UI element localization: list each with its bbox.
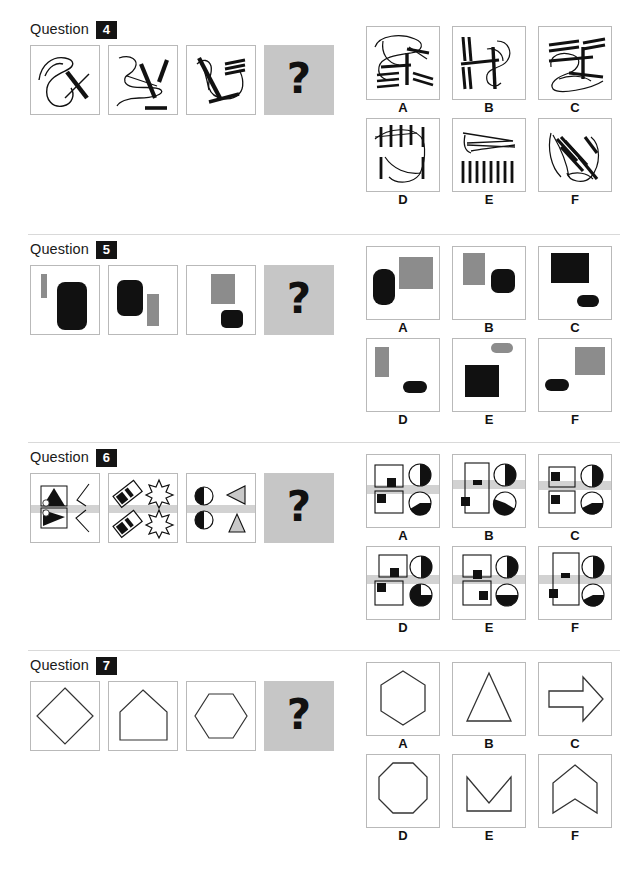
option-d[interactable]: D xyxy=(366,754,440,844)
stem-cell-1[interactable] xyxy=(30,265,100,335)
option-d-figure[interactable] xyxy=(366,338,440,412)
stem-cell-2[interactable] xyxy=(108,681,178,751)
stem-cell-unknown[interactable]: ? xyxy=(264,473,334,543)
question-mark-glyph: ? xyxy=(287,486,311,528)
question-word-label: Question xyxy=(30,656,89,675)
stem-row-5: ? xyxy=(30,265,334,335)
option-e-figure[interactable] xyxy=(452,118,526,192)
option-e[interactable]: E xyxy=(452,546,526,636)
option-b[interactable]: B xyxy=(452,454,526,544)
question-word-label: Question xyxy=(30,448,89,467)
stem-cell-1[interactable] xyxy=(30,45,100,115)
stem-cell-2[interactable] xyxy=(108,265,178,335)
option-e-figure[interactable] xyxy=(452,546,526,620)
option-c-figure[interactable] xyxy=(538,26,612,100)
option-b-label: B xyxy=(452,100,526,116)
option-d-figure[interactable] xyxy=(366,118,440,192)
stem-row-7: ? xyxy=(30,681,334,751)
option-f-figure[interactable] xyxy=(538,118,612,192)
option-f[interactable]: F xyxy=(538,338,612,428)
question-block-5: Question 5 xyxy=(0,234,644,442)
option-d-label: D xyxy=(366,412,440,428)
option-f-figure[interactable] xyxy=(538,338,612,412)
option-f-label: F xyxy=(538,192,612,208)
option-f[interactable]: F xyxy=(538,546,612,636)
option-d[interactable]: D xyxy=(366,338,440,428)
answer-row-4: A B xyxy=(366,26,612,208)
option-d-figure[interactable] xyxy=(366,546,440,620)
option-f-figure[interactable] xyxy=(538,754,612,828)
section-separator xyxy=(28,650,620,651)
option-a-figure[interactable] xyxy=(366,246,440,320)
option-b-figure[interactable] xyxy=(452,662,526,736)
option-e-label: E xyxy=(452,192,526,208)
option-a-figure[interactable] xyxy=(366,662,440,736)
option-d-figure[interactable] xyxy=(366,754,440,828)
option-a[interactable]: A xyxy=(366,454,440,544)
option-f[interactable]: F xyxy=(538,754,612,844)
stem-cell-unknown[interactable]: ? xyxy=(264,45,334,115)
option-c-label: C xyxy=(538,320,612,336)
stem-cell-3[interactable] xyxy=(186,45,256,115)
option-b-label: B xyxy=(452,320,526,336)
option-d[interactable]: D xyxy=(366,118,440,208)
option-f-label: F xyxy=(538,412,612,428)
option-b-figure[interactable] xyxy=(452,246,526,320)
option-a-label: A xyxy=(366,100,440,116)
answer-row-7: A B C xyxy=(366,662,612,844)
option-d[interactable]: D xyxy=(366,546,440,636)
option-a[interactable]: A xyxy=(366,246,440,336)
option-b-figure[interactable] xyxy=(452,454,526,528)
question-header-6: Question 6 xyxy=(30,448,117,467)
stem-cell-1[interactable] xyxy=(30,681,100,751)
stem-cell-3[interactable] xyxy=(186,473,256,543)
option-f[interactable]: F xyxy=(538,118,612,208)
option-e-figure[interactable] xyxy=(452,754,526,828)
option-a-figure[interactable] xyxy=(366,26,440,100)
option-c-figure[interactable] xyxy=(538,454,612,528)
stem-cell-3[interactable] xyxy=(186,265,256,335)
option-d-label: D xyxy=(366,620,440,636)
option-e[interactable]: E xyxy=(452,754,526,844)
option-c[interactable]: C xyxy=(538,246,612,336)
option-a-label: A xyxy=(366,736,440,752)
question-header-7: Question 7 xyxy=(30,656,117,675)
option-c-label: C xyxy=(538,528,612,544)
stem-cell-1[interactable] xyxy=(30,473,100,543)
option-a[interactable]: A xyxy=(366,662,440,752)
stem-cell-2[interactable] xyxy=(108,473,178,543)
stem-cell-unknown[interactable]: ? xyxy=(264,265,334,335)
answer-row-5: A B C xyxy=(366,246,612,428)
stem-cell-3[interactable] xyxy=(186,681,256,751)
option-f-figure[interactable] xyxy=(538,546,612,620)
option-a[interactable]: A xyxy=(366,26,440,116)
option-d-label: D xyxy=(366,192,440,208)
question-number-badge: 6 xyxy=(96,449,117,467)
option-b[interactable]: B xyxy=(452,26,526,116)
question-word-label: Question xyxy=(30,20,89,39)
option-b[interactable]: B xyxy=(452,246,526,336)
option-e-figure[interactable] xyxy=(452,338,526,412)
option-c-figure[interactable] xyxy=(538,662,612,736)
option-b-figure[interactable] xyxy=(452,26,526,100)
option-e[interactable]: E xyxy=(452,338,526,428)
question-word-label: Question xyxy=(30,240,89,259)
option-b-label: B xyxy=(452,528,526,544)
stem-row-4: ? xyxy=(30,45,334,115)
stem-cell-unknown[interactable]: ? xyxy=(264,681,334,751)
option-c[interactable]: C xyxy=(538,454,612,544)
option-c[interactable]: C xyxy=(538,26,612,116)
question-block-4: Question 4 xyxy=(0,14,644,230)
question-mark-glyph: ? xyxy=(287,694,311,736)
option-a-figure[interactable] xyxy=(366,454,440,528)
question-header-4: Question 4 xyxy=(30,20,117,39)
option-c-label: C xyxy=(538,736,612,752)
option-f-label: F xyxy=(538,828,612,844)
question-sheet: Question 4 xyxy=(0,0,644,871)
stem-cell-2[interactable] xyxy=(108,45,178,115)
option-c[interactable]: C xyxy=(538,662,612,752)
option-e[interactable]: E xyxy=(452,118,526,208)
option-b[interactable]: B xyxy=(452,662,526,752)
option-c-figure[interactable] xyxy=(538,246,612,320)
question-block-7: Question 7 ? xyxy=(0,650,644,865)
